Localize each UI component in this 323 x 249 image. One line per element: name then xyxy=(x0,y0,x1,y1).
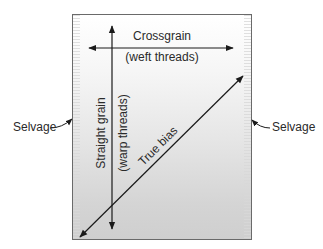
fabric-grain-diagram: Crossgrain (weft threads) Straight grain… xyxy=(0,0,323,249)
warp-threads-label: (warp threads) xyxy=(117,88,129,178)
selvage-right-pointer-arrow xyxy=(252,120,270,128)
selvage-label-left: Selvage xyxy=(13,121,56,133)
crossgrain-label: Crossgrain xyxy=(112,30,212,42)
straight-grain-label: Straight grain xyxy=(95,88,107,178)
weft-threads-label: (weft threads) xyxy=(112,51,212,63)
selvage-label-right: Selvage xyxy=(272,121,315,133)
